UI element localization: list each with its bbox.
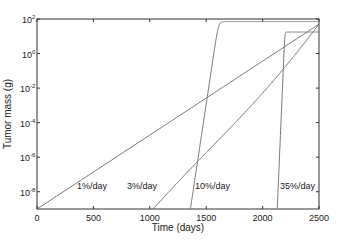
y-tick-label: 10-2 xyxy=(20,83,36,94)
x-axis-label: Time (days) xyxy=(152,222,204,233)
curve-label-35pct: 35%/day xyxy=(280,181,316,191)
y-tick-label: 100 xyxy=(22,49,36,60)
y-tick-label: 10-8 xyxy=(20,187,36,198)
y-tick-label: 102 xyxy=(22,14,36,25)
curve-label-10pct: 10%/day xyxy=(195,181,231,191)
x-tick-label: 0 xyxy=(34,213,39,223)
chart-canvas: 0 500 1000 1500 2000 2500 102 100 10-2 1… xyxy=(0,0,340,241)
x-tick-label: 2000 xyxy=(253,213,273,223)
x-tick-label: 2500 xyxy=(309,213,329,223)
y-tick-label: 10-4 xyxy=(20,118,36,129)
y-axis-label: Tumor mass (g) xyxy=(2,79,13,149)
x-tick-label: 500 xyxy=(86,213,101,223)
curve-label-3pct: 3%/day xyxy=(127,181,158,191)
curve-label-1pct: 1%/day xyxy=(77,181,108,191)
y-tick-labels: 102 100 10-2 10-4 10-6 10-8 xyxy=(20,14,36,198)
y-tick-label: 10-6 xyxy=(20,152,36,163)
